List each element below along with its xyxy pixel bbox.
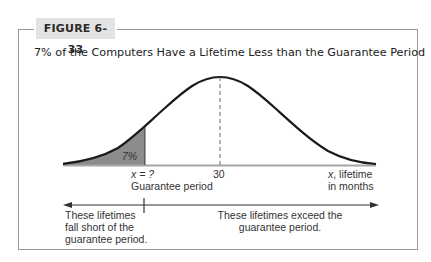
exceed-note-line2: guarantee period.: [200, 221, 360, 233]
exceed-lifetime-note: These lifetimes exceed the guarantee per…: [200, 209, 360, 233]
short-note-line2: fall short of the: [65, 221, 147, 233]
guarantee-period-label: Guarantee period: [131, 180, 213, 192]
x-axis-label-line1: , lifetime: [333, 168, 372, 180]
short-note-line3: guarantee period.: [65, 233, 147, 245]
left-arrowhead-icon: [63, 202, 72, 208]
x-axis-label-line2: in months: [328, 180, 374, 192]
short-lifetime-note: These lifetimes fall short of the guaran…: [65, 209, 147, 245]
short-note-line1: These lifetimes: [65, 209, 147, 221]
right-arrowhead-icon: [370, 202, 379, 208]
shaded-percent-label: 7%: [122, 150, 137, 162]
x-unknown-label: x = ?: [131, 168, 154, 180]
x-axis-label: x, lifetime in months: [328, 168, 374, 192]
mean-tick-label: 30: [213, 168, 225, 180]
exceed-note-line1: These lifetimes exceed the: [200, 209, 360, 221]
